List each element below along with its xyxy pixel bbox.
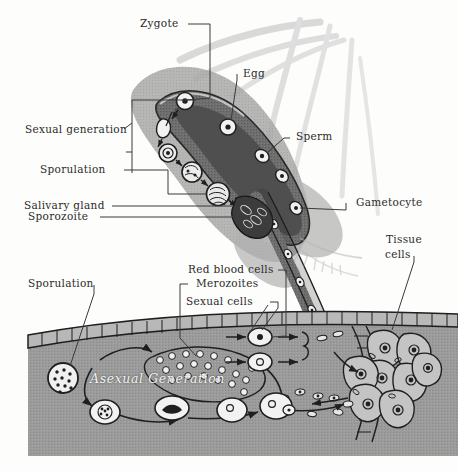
label-sexual-generation: Sexual generation [25, 123, 127, 135]
label-merozoites: Merozoites [196, 277, 258, 289]
label-red-blood-cells: Red blood cells [188, 263, 274, 275]
label-sporozoite: Sporozoite [28, 210, 88, 222]
label-sperm: Sperm [296, 130, 333, 142]
egg-cell [220, 119, 236, 135]
ring-stage-cell [90, 400, 120, 424]
malaria-life-cycle-figure: Zygote Egg Sperm Sexual generation Sporu… [0, 0, 458, 471]
label-asexual-generation: Asexual Generation [90, 371, 225, 386]
label-zygote: Zygote [140, 17, 179, 29]
oocyst-stage-2 [182, 162, 202, 182]
label-egg: Egg [243, 67, 265, 79]
sporulating-schizont [48, 363, 78, 394]
trophozoite-cell [155, 396, 189, 420]
label-tissue-cells-line2: cells [385, 248, 411, 260]
label-sporulation-top: Sporulation [40, 163, 106, 175]
infected-red-cell [217, 398, 247, 422]
label-sexual-cells: Sexual cells [186, 295, 253, 307]
label-gametocyte: Gametocyte [356, 196, 423, 208]
label-sporulation-bottom: Sporulation [28, 277, 94, 289]
label-tissue-cells-line1: Tissue [386, 233, 422, 245]
